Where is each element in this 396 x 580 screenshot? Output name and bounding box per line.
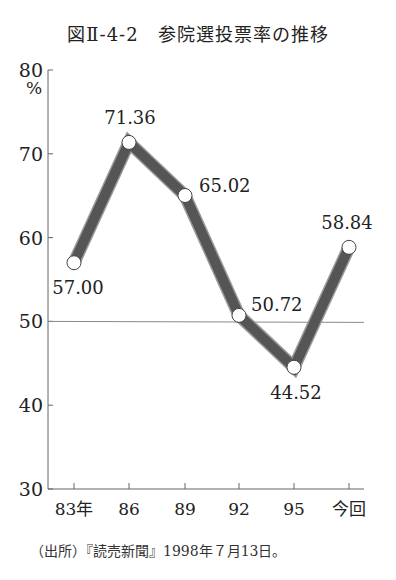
y-unit-label: % — [26, 78, 42, 98]
data-point-marker — [232, 308, 246, 322]
data-point-marker — [67, 256, 81, 270]
data-point-marker — [178, 189, 192, 203]
x-tick-label: 86 — [118, 499, 140, 519]
y-tick-label: 60 — [19, 227, 43, 249]
x-tick-label: 83年 — [55, 499, 94, 519]
x-tick-label: 95 — [283, 499, 305, 519]
line-chart: 304050607080%83年86899295今回 57.0071.3665.… — [0, 0, 396, 540]
y-tick-label: 40 — [19, 394, 43, 416]
y-tick-label: 70 — [19, 143, 43, 165]
data-point-marker — [122, 135, 136, 149]
data-point-marker — [287, 360, 301, 374]
x-tick-label: 89 — [174, 499, 196, 519]
y-tick-label: 30 — [19, 478, 43, 500]
x-tick-label: 今回 — [332, 499, 366, 519]
data-point-marker — [342, 240, 356, 254]
x-tick-label: 92 — [228, 499, 250, 519]
y-tick-label: 50 — [19, 310, 43, 332]
data-label: 57.00 — [52, 277, 104, 298]
data-label: 71.36 — [104, 107, 156, 128]
source-note: （出所）『読売新聞』1998年７月13日。 — [30, 540, 286, 560]
data-label: 44.52 — [270, 382, 322, 403]
plot-area — [67, 135, 356, 374]
data-label: 65.02 — [199, 175, 251, 196]
data-label: 50.72 — [251, 294, 303, 315]
data-label: 58.84 — [321, 212, 373, 233]
